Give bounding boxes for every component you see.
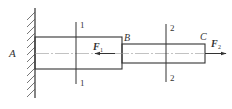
label-f2-sub: 2	[218, 44, 221, 50]
label-f2: F	[210, 38, 218, 49]
label-section1-top: 1	[80, 20, 85, 30]
label-section2-bottom: 2	[170, 73, 175, 83]
label-f1: F	[92, 41, 100, 52]
stepped-bar-diagram: A B C F 1 F 2 1 1 2 2	[0, 0, 232, 109]
label-section1-bottom: 1	[80, 78, 85, 88]
label-section2-top: 2	[170, 23, 175, 33]
label-f1-sub: 1	[100, 47, 103, 53]
fixed-wall-support	[27, 8, 35, 98]
label-a: A	[8, 47, 16, 59]
label-b: B	[124, 32, 130, 43]
label-c: C	[200, 31, 207, 42]
